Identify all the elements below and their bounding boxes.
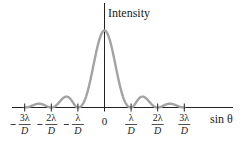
x-tick-label: λD — [125, 112, 137, 136]
svg-text:2λ: 2λ — [46, 112, 56, 123]
x-tick-label: 2λD — [37, 112, 57, 136]
svg-text:λ: λ — [75, 112, 80, 123]
svg-text:3λ: 3λ — [179, 112, 189, 123]
svg-text:D: D — [47, 125, 56, 136]
y-axis-label: Intensity — [108, 6, 150, 20]
x-tick-label: 2λD — [152, 112, 164, 136]
x-tick-label: 0 — [102, 115, 108, 127]
svg-text:D: D — [20, 125, 29, 136]
x-axis-label: sin θ — [210, 112, 233, 126]
svg-text:3λ: 3λ — [20, 112, 30, 123]
svg-text:λ: λ — [129, 112, 134, 123]
svg-text:2λ: 2λ — [153, 112, 163, 123]
svg-text:D: D — [126, 125, 135, 136]
svg-text:D: D — [153, 125, 162, 136]
x-tick-label: 3λD — [11, 112, 31, 136]
svg-text:D: D — [73, 125, 82, 136]
x-tick-labels: 3λD2λDλD0λD2λD3λD — [11, 112, 191, 136]
diffraction-intensity-chart: 3λD2λDλD0λD2λD3λD Intensity sin θ — [0, 0, 243, 146]
svg-text:0: 0 — [102, 115, 108, 127]
x-tick-label: λD — [64, 112, 84, 136]
x-tick-label: 3λD — [178, 112, 190, 136]
svg-text:D: D — [180, 125, 189, 136]
